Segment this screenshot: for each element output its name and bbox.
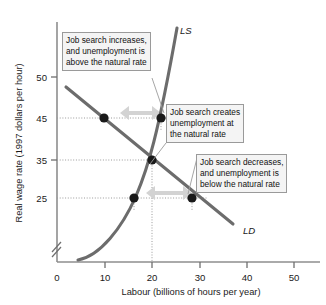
callout-above-line-1: Job search increases,	[66, 35, 147, 46]
y-axis-title: Real wage rate (1997 dollars per hour)	[14, 63, 24, 222]
callout-below-natural-rate: Job search decreases, and unemployment i…	[196, 154, 287, 193]
labour-demand-curve-label: LD	[243, 225, 255, 236]
callout-at-natural-rate: Job search creates unemployment at the n…	[166, 104, 244, 143]
callout-at-line-1: Job search creates	[170, 107, 240, 118]
labour-supply-curve-label: LS	[180, 25, 192, 36]
callout-below-line-1: Job search decreases,	[200, 157, 283, 168]
x-tick-label-50: 50	[289, 272, 300, 283]
y-tick-label-25: 25	[36, 193, 47, 204]
callout-below-line-2: and unemployment is	[200, 168, 283, 179]
economics-labour-market-chart: 50 45 35 25 0 10 20 30 40 50 Labour (bil…	[0, 0, 326, 305]
callout-at-line-2: unemployment at	[170, 118, 240, 129]
point-demand-at-wage-25	[187, 193, 196, 202]
point-supply-at-wage-25	[129, 193, 138, 202]
x-axis-title: Labour (billions of hours per year)	[121, 287, 260, 297]
figure-container: 50 45 35 25 0 10 20 30 40 50 Labour (bil…	[0, 0, 326, 305]
y-tick-label-50: 50	[36, 72, 47, 83]
callout-above-line-2: and unemployment is	[66, 46, 147, 57]
x-tick-label-40: 40	[242, 272, 253, 283]
callout-below-line-3: below the natural rate	[200, 179, 283, 190]
callout-above-line-3: above the natural rate	[66, 57, 147, 68]
y-tick-label-35: 35	[36, 155, 47, 166]
x-tick-label-30: 30	[195, 272, 206, 283]
y-tick-label-45: 45	[36, 113, 47, 124]
x-tick-label-20: 20	[147, 272, 158, 283]
x-tick-label-0: 0	[54, 272, 59, 283]
point-supply-at-wage-45	[156, 113, 165, 122]
x-tick-label-10: 10	[100, 272, 111, 283]
callout-above-natural-rate: Job search increases, and unemployment i…	[62, 32, 151, 71]
point-demand-at-wage-45	[99, 113, 108, 122]
callout-at-line-3: the natural rate	[170, 129, 240, 140]
unemployment-gap-arrow-below	[146, 186, 192, 200]
